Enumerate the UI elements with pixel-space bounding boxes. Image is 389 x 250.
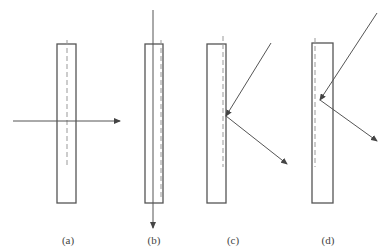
ray-arrow	[226, 116, 287, 164]
panel-b	[145, 10, 163, 228]
panels-group	[13, 10, 377, 228]
slab-rectangle	[145, 44, 163, 203]
slab-rectangle	[207, 44, 226, 203]
panel-a	[13, 40, 120, 203]
panel-label-d: (d)	[322, 234, 335, 247]
panel-label-c: (c)	[227, 234, 240, 247]
panel-c	[207, 36, 287, 203]
panel-label-a: (a)	[62, 234, 75, 247]
panel-label-b: (b)	[148, 234, 161, 247]
ray-arrow	[226, 43, 271, 116]
labels-group: (a) (b) (c) (d)	[62, 234, 335, 247]
diagram-canvas: (a) (b) (c) (d)	[0, 0, 389, 250]
panel-d	[312, 13, 377, 203]
